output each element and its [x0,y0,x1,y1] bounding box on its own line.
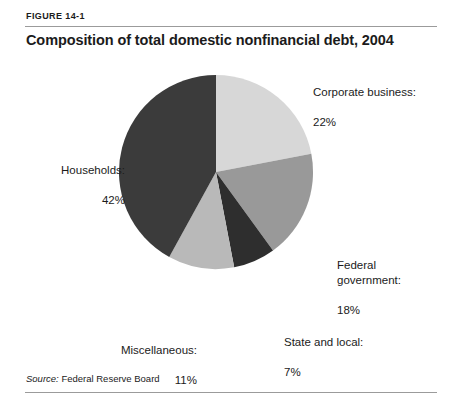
pie-label-corporate-business-name: Corporate business: [313,85,453,100]
pie-label-households-value: 42% [8,193,125,208]
pie-label-federal-government-name: Federal government: [337,258,457,288]
pie-label-state-and-local-value: 7% [284,365,424,380]
footer-divider [25,392,437,393]
pie-label-households-name: Households: [8,163,125,178]
pie-label-state-and-local-name: State and local: [284,335,424,350]
source-note-prefix: Source: [26,373,59,384]
pie-slice-group [119,75,313,269]
figure-container: FIGURE 14-1 Composition of total domesti… [0,0,463,409]
pie-label-households: Households: 42% [8,148,125,223]
pie-chart [118,74,314,270]
pie-label-federal-government-value: 18% [337,303,457,318]
source-note-text: Federal Reserve Board [59,373,160,384]
pie-label-state-and-local: State and local: 7% [284,320,424,395]
pie-label-corporate-business: Corporate business: 22% [313,70,453,145]
source-note: Source: Federal Reserve Board [26,373,160,384]
pie-label-miscellaneous-name: Miscellaneous: [70,343,197,358]
pie-label-corporate-business-value: 22% [313,115,453,130]
